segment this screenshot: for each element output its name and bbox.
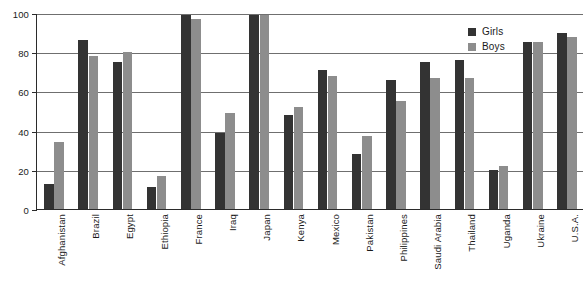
bar-girls <box>420 62 430 209</box>
bar-chart: 020406080100 AfghanistanBrazilEgyptEthio… <box>0 0 588 288</box>
bar-girls <box>284 115 294 209</box>
bar-girls <box>147 187 157 209</box>
x-axis-label: Brazil <box>91 214 101 239</box>
x-axis-labels: AfghanistanBrazilEgyptEthiopiaFranceIraq… <box>36 212 583 288</box>
bar-group <box>420 14 440 209</box>
legend-item: Girls <box>468 24 505 39</box>
bar-group <box>113 14 133 209</box>
x-axis-label: Ethiopia <box>160 214 170 250</box>
bar-girls <box>523 42 533 209</box>
bar-group <box>386 14 406 209</box>
x-axis-label: Pakistan <box>365 214 375 252</box>
x-axis-label: Philippines <box>399 214 409 262</box>
x-axis-label: Saudi Arabia <box>433 214 443 270</box>
x-axis-label: Mexico <box>331 214 341 245</box>
bar-boys <box>396 101 406 209</box>
bar-boys <box>533 42 543 209</box>
y-axis-tick-label: 0 <box>24 205 29 216</box>
bar-group <box>318 14 338 209</box>
x-axis-label: Japan <box>262 214 272 241</box>
bar-group <box>44 14 64 209</box>
y-axis-tick-label: 80 <box>18 48 29 59</box>
bar-group <box>249 14 269 209</box>
y-axis-tick-label: 40 <box>18 126 29 137</box>
bar-girls <box>352 154 362 209</box>
legend-label: Girls <box>482 26 503 37</box>
bar-girls <box>455 60 465 209</box>
bar-group <box>557 14 577 209</box>
bar-group <box>78 14 98 209</box>
chart-legend: GirlsBoys <box>468 24 505 54</box>
bar-girls <box>386 80 396 209</box>
y-axis-tick-label: 20 <box>18 165 29 176</box>
bar-boys <box>567 37 577 209</box>
bar-boys <box>260 15 270 209</box>
legend-swatch-icon <box>468 28 476 36</box>
bar-girls <box>557 33 567 209</box>
bar-boys <box>54 142 64 209</box>
bar-boys <box>191 19 201 209</box>
bar-group <box>147 14 167 209</box>
x-axis-label: Uganda <box>502 214 512 248</box>
x-axis-label: Afghanistan <box>57 214 67 266</box>
bar-boys <box>157 176 167 209</box>
bar-girls <box>181 15 191 209</box>
legend-label: Boys <box>482 41 505 52</box>
bar-boys <box>123 52 133 209</box>
legend-item: Boys <box>468 39 505 54</box>
bar-girls <box>489 170 499 209</box>
x-axis-label: Kenya <box>296 214 306 242</box>
bar-boys <box>362 136 372 209</box>
bar-boys <box>465 78 475 209</box>
bar-boys <box>89 56 99 209</box>
bar-boys <box>499 166 509 209</box>
bar-boys <box>294 107 304 209</box>
bar-group <box>284 14 304 209</box>
x-axis-label: Thailand <box>467 214 477 252</box>
legend-swatch-icon <box>468 43 476 51</box>
x-axis-label: Egypt <box>125 214 135 239</box>
x-axis-label: France <box>194 214 204 244</box>
bar-group <box>181 14 201 209</box>
y-axis-tick <box>32 210 37 211</box>
x-axis-label: Iraq <box>228 214 238 231</box>
bar-girls <box>78 40 88 209</box>
bar-girls <box>44 184 54 209</box>
bar-group <box>523 14 543 209</box>
bar-group <box>352 14 372 209</box>
y-axis-tick-label: 100 <box>13 9 29 20</box>
bar-boys <box>225 113 235 209</box>
bar-group <box>215 14 235 209</box>
bar-girls <box>215 133 225 209</box>
bar-boys <box>430 78 440 209</box>
bar-girls <box>249 15 259 209</box>
bar-girls <box>113 62 123 209</box>
x-axis-label: Ukraine <box>536 214 546 248</box>
bar-boys <box>328 76 338 209</box>
y-axis-tick-label: 60 <box>18 87 29 98</box>
x-axis-label: U.S.A. <box>570 214 580 242</box>
bar-girls <box>318 70 328 209</box>
